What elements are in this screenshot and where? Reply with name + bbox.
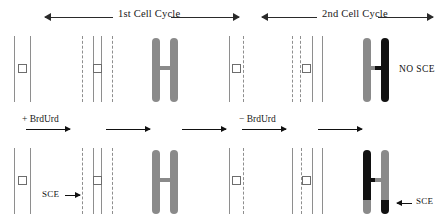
figure-canvas: 1st Cell Cycle 2nd Cell Cycle bbox=[0, 0, 442, 223]
centromere-square-icon bbox=[232, 64, 241, 73]
dna-strand-brdurd bbox=[112, 148, 113, 214]
dna-strand bbox=[30, 148, 31, 214]
dna-strand-brdurd bbox=[82, 148, 83, 214]
no-sce-label: NO SCE bbox=[399, 64, 435, 74]
dna-strand bbox=[312, 36, 313, 102]
chromatid-arm bbox=[152, 150, 160, 214]
chromatid-arm bbox=[170, 150, 178, 214]
dna-strand bbox=[14, 36, 15, 102]
centromere-waist bbox=[375, 66, 383, 70]
row2-stage3-metaphase-chromosome bbox=[152, 150, 184, 214]
chromatid-gray bbox=[152, 150, 160, 214]
progress-arrow-5 bbox=[318, 126, 362, 133]
chromatid-black-with-gray-tip bbox=[363, 150, 371, 214]
dna-strand-brdurd bbox=[292, 36, 293, 102]
row1-stage1-unreplicated-dna bbox=[14, 36, 36, 102]
sce-pointer-arrow-right bbox=[397, 200, 412, 207]
centromere-waist bbox=[158, 66, 172, 70]
dna-strand-brdurd bbox=[243, 148, 244, 214]
chromatid-arm bbox=[363, 38, 371, 102]
minus-brdurd-label: − BrdUrd bbox=[239, 114, 276, 124]
chromatid-black bbox=[381, 38, 389, 102]
chromatid-arm-exchange-gray bbox=[363, 200, 371, 214]
chromatid-arm-gray bbox=[381, 150, 389, 200]
row1-stage3-metaphase-chromosome bbox=[152, 38, 184, 102]
first-cycle-arrow-left bbox=[45, 13, 113, 22]
progress-arrow-2 bbox=[106, 126, 150, 133]
chromatid-gray bbox=[152, 38, 160, 102]
centromere-square-icon bbox=[302, 64, 311, 73]
row2-stage4-single-chromatid-dna bbox=[229, 148, 249, 214]
chromatid-gray bbox=[170, 150, 178, 214]
centromere-waist bbox=[158, 178, 172, 182]
centromere-square-icon bbox=[18, 64, 27, 73]
first-cycle-arrow-right bbox=[171, 13, 239, 22]
dna-strand-brdurd bbox=[112, 36, 113, 102]
row2-stage5-replicated-dna-no-brdurd bbox=[292, 148, 326, 214]
centromere-square-icon bbox=[93, 64, 102, 73]
dna-strand bbox=[322, 148, 323, 214]
dna-strand bbox=[229, 36, 230, 102]
dna-strand bbox=[229, 148, 230, 214]
dna-strand-brdurd bbox=[300, 36, 301, 102]
dna-strand bbox=[312, 148, 313, 214]
row1-stage4-single-chromatid-dna bbox=[229, 36, 249, 102]
centromere-waist bbox=[375, 178, 383, 182]
dna-strand bbox=[292, 148, 293, 214]
row1-stage6-metaphase-chromosome-differential bbox=[363, 38, 395, 102]
plus-brdurd-arrow bbox=[26, 126, 70, 133]
row2-stage1-unreplicated-dna bbox=[14, 148, 36, 214]
minus-brdurd-arrow bbox=[242, 126, 286, 133]
dna-strand-brdurd bbox=[82, 36, 83, 102]
row2-stage6-metaphase-chromosome-sce bbox=[363, 150, 395, 214]
row1-stage5-replicated-dna-no-brdurd bbox=[292, 36, 326, 102]
chromatid-gray bbox=[363, 38, 371, 102]
progress-arrow-3 bbox=[182, 126, 226, 133]
chromatid-gray-with-black-tip bbox=[381, 150, 389, 214]
sce-label-left: SCE bbox=[42, 189, 59, 199]
centromere-square-icon bbox=[93, 176, 102, 185]
chromatid-arm bbox=[381, 38, 389, 102]
dna-strand bbox=[14, 148, 15, 214]
centromere-square-icon bbox=[302, 176, 311, 185]
row1-stage2-replicated-dna-brdurd bbox=[82, 36, 116, 102]
chromatid-gray bbox=[170, 38, 178, 102]
plus-brdurd-label: + BrdUrd bbox=[22, 114, 59, 124]
dna-strand bbox=[30, 36, 31, 102]
chromatid-arm-exchange-black bbox=[381, 200, 389, 214]
row2-stage2-replicated-dna-brdurd-exchange bbox=[82, 148, 116, 214]
chromatid-arm bbox=[152, 38, 160, 102]
second-cycle-arrow-right bbox=[378, 13, 433, 22]
centromere-square-icon bbox=[18, 176, 27, 185]
second-cycle-arrow-left bbox=[262, 13, 317, 22]
centromere-square-icon bbox=[232, 176, 241, 185]
dna-strand-exchange-segment bbox=[93, 198, 94, 214]
chromatid-arm-black bbox=[363, 150, 371, 200]
chromatid-arm bbox=[170, 38, 178, 102]
dna-strand-brdurd bbox=[243, 36, 244, 102]
sce-label-right: SCE bbox=[416, 196, 433, 206]
dna-strand bbox=[322, 36, 323, 102]
sce-pointer-arrow-left bbox=[65, 192, 80, 199]
